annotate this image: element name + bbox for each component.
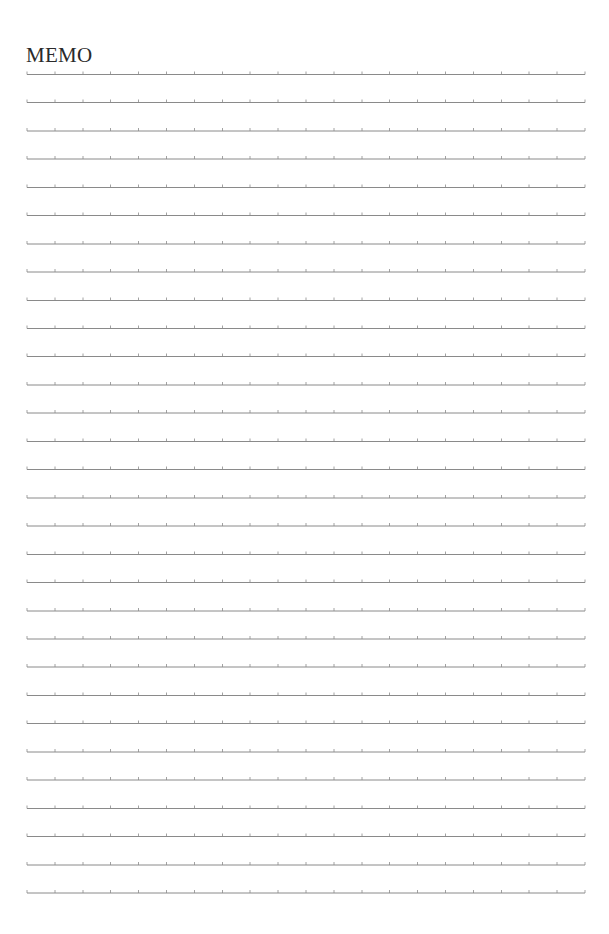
ruled-line: [27, 382, 585, 385]
ruled-line: [27, 467, 585, 470]
ruled-line: [27, 777, 585, 780]
ruled-line: [27, 834, 585, 837]
ruled-line: [27, 608, 585, 611]
ruled-lines: [0, 0, 609, 934]
ruled-line: [27, 213, 585, 216]
ruled-line: [27, 269, 585, 272]
ruled-line: [27, 72, 585, 75]
ruled-line: [27, 523, 585, 526]
ruled-line: [27, 156, 585, 159]
ruled-line: [27, 552, 585, 555]
ruled-line: [27, 580, 585, 583]
ruled-line: [27, 749, 585, 752]
ruled-line: [27, 693, 585, 696]
ruled-line: [27, 636, 585, 639]
ruled-line: [27, 806, 585, 809]
ruled-line: [27, 100, 585, 103]
ruled-line: [27, 241, 585, 244]
ruled-line: [27, 862, 585, 865]
ruled-line: [27, 721, 585, 724]
ruled-line: [27, 439, 585, 442]
ruled-line: [27, 664, 585, 667]
ruled-line: [27, 185, 585, 188]
ruled-line: [27, 326, 585, 329]
ruled-line: [27, 298, 585, 301]
ruled-line: [27, 128, 585, 131]
ruled-line: [27, 890, 585, 893]
ruled-line: [27, 354, 585, 357]
ruled-line: [27, 410, 585, 413]
ruled-line: [27, 495, 585, 498]
